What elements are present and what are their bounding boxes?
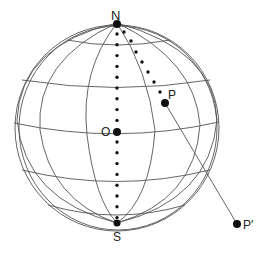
point-p-prime xyxy=(233,220,241,228)
axis-dot xyxy=(115,184,118,187)
axis-dot xyxy=(115,86,118,89)
projection-ray xyxy=(165,103,237,224)
label-p: P xyxy=(168,88,176,102)
axis-dot xyxy=(115,76,118,79)
axis-dot xyxy=(115,97,118,100)
arc-dot xyxy=(129,39,132,42)
arc-dot xyxy=(152,80,155,83)
point-south xyxy=(114,220,121,227)
arc-dot xyxy=(140,60,143,63)
meridian-2 xyxy=(86,23,117,223)
axis-dot xyxy=(115,194,118,197)
arc-dot xyxy=(146,70,149,73)
label-north: N xyxy=(111,8,120,23)
arc-dot xyxy=(122,30,125,33)
meridian-6 xyxy=(117,23,217,223)
axis-dot xyxy=(115,119,118,122)
label-south: S xyxy=(113,230,121,244)
axis-dot xyxy=(115,43,118,46)
axis-dot xyxy=(115,32,118,35)
label-center: O xyxy=(101,125,110,139)
axis-dot xyxy=(115,151,118,154)
axis-dot xyxy=(115,162,118,165)
arc-dot xyxy=(158,90,161,93)
axis-dot xyxy=(115,205,118,208)
arc-dot xyxy=(134,50,137,53)
meridian-5 xyxy=(17,23,117,223)
sphere-diagram: N S O P P′ xyxy=(0,0,270,253)
axis-dot xyxy=(115,140,118,143)
axis-dot xyxy=(115,173,118,176)
axis-dot xyxy=(115,108,118,111)
axis-dot xyxy=(115,65,118,68)
axis-dot xyxy=(115,216,118,219)
label-p-prime: P′ xyxy=(243,218,254,232)
latitude-line-30n xyxy=(22,80,210,88)
axis-dot xyxy=(115,54,118,57)
point-center xyxy=(113,128,121,136)
